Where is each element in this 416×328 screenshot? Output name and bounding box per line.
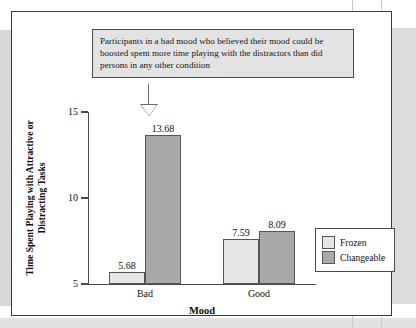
bar-value-label-good-changeable: 8.09	[268, 219, 286, 230]
y-axis-tick-15: 15	[81, 111, 88, 112]
bar-bad-frozen[interactable]: 5.68	[109, 272, 145, 284]
y-axis-tick-5: 5	[81, 283, 88, 284]
scan-artifact-left-band	[0, 30, 11, 306]
annotation-callout: Participants in a bad mood who believed …	[92, 29, 354, 78]
bar-value-label-bad-changeable: 13.68	[152, 123, 175, 134]
y-axis-tick-label-15: 15	[68, 106, 78, 117]
bar-good-changeable[interactable]: 8.09	[259, 231, 295, 284]
y-axis-title: Time Spent Playing with Attractive or Di…	[24, 120, 47, 276]
y-axis-tick-10: 10	[81, 197, 88, 198]
y-axis-title-line-1: Time Spent Playing with Attractive or	[24, 120, 35, 276]
scan-artifact-bottom-band	[0, 318, 416, 328]
scan-artifact-right-band	[392, 28, 416, 304]
chart-legend: Frozen Changeable	[315, 228, 395, 272]
y-axis-tick-label-5: 5	[73, 278, 78, 289]
bar-bad-changeable[interactable]: 13.68	[145, 135, 181, 284]
y-axis-tick-label-10: 10	[68, 192, 78, 203]
figure-frame: Participants in a bad mood who believed …	[11, 11, 392, 316]
legend-swatch-changeable-icon	[322, 251, 335, 264]
x-axis-label-bad: Bad	[137, 288, 153, 299]
x-axis-label-good: Good	[248, 288, 270, 299]
legend-item-changeable: Changeable	[322, 251, 388, 264]
x-axis-line	[88, 284, 316, 285]
legend-item-frozen: Frozen	[322, 236, 388, 249]
bar-value-label-bad-frozen: 5.68	[118, 260, 136, 271]
bar-good-frozen[interactable]: 7.59	[223, 239, 259, 284]
bar-value-label-good-frozen: 7.59	[232, 227, 250, 238]
legend-label-frozen: Frozen	[340, 237, 367, 248]
y-axis-title-line-2: Distracting Tasks	[36, 162, 47, 233]
legend-swatch-frozen-icon	[322, 236, 335, 249]
legend-label-changeable: Changeable	[340, 252, 385, 263]
plot-area: 5.6813.687.598.09	[88, 112, 316, 284]
x-axis-title: Mood	[189, 305, 215, 316]
